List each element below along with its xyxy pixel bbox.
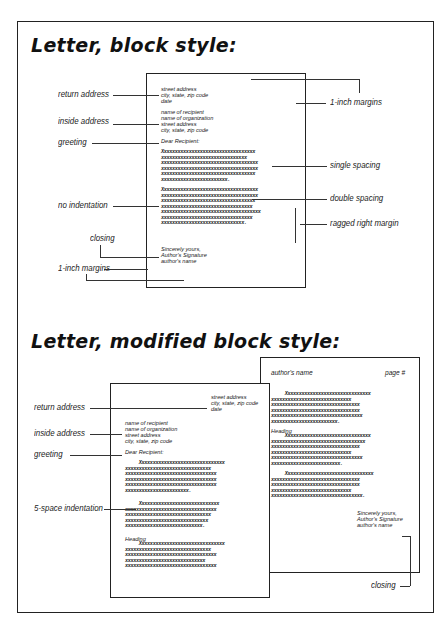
leader-line	[402, 536, 410, 537]
modified-letter-page-1: street address city, state, zip code dat…	[110, 383, 270, 598]
leader-line	[400, 586, 410, 587]
ragged-margin-marker	[295, 208, 296, 243]
label-ragged-right: ragged right margin	[330, 218, 399, 228]
author-name-line: author's name	[357, 522, 392, 528]
return-address-line: date	[161, 98, 172, 104]
label-margins-left: 1-inch margins	[58, 263, 110, 273]
label-inside-address: inside address	[34, 428, 85, 438]
label-return-address: return address	[34, 402, 85, 412]
leader-line	[113, 206, 159, 207]
page-header-page-number: page #	[385, 370, 405, 376]
label-no-indentation: no indentation	[58, 200, 108, 210]
leader-line	[70, 455, 122, 456]
leader-line	[86, 280, 184, 281]
page-header-author-name: author's name	[271, 370, 313, 376]
leader-line	[251, 79, 359, 80]
modified-letter-page-2: author's name page # Xxxxxxxxxxxxxxxxxxx…	[260, 357, 420, 573]
paragraph-no-indent: Xxxxxxxxxxxxxxxxxxxxxxxxxxxxxxxxxxx xxxx…	[161, 188, 260, 227]
label-closing: closing	[371, 580, 396, 590]
paragraph-indented: Xxxxxxxxxxxxxxxxxxxxxxxxxxxxxxx xxxxxxxx…	[125, 542, 224, 570]
paragraph-indented: Xxxxxxxxxxxxxxxxxxxxxxxxxxxxxxxx xxxxxxx…	[271, 472, 373, 500]
label-closing: closing	[90, 233, 115, 243]
leader-line	[100, 257, 159, 258]
label-greeting: greeting	[58, 137, 87, 147]
label-margins-right: 1-inch margins	[330, 97, 382, 107]
leader-line	[100, 245, 101, 257]
paragraph-indented: Xxxxxxxxxxxxxxxxxxxxxxxxxxxxx xxxxxxxxxx…	[125, 502, 219, 530]
leader-line	[359, 79, 360, 93]
leader-line	[90, 434, 122, 435]
leader-line	[113, 95, 159, 96]
leader-line	[252, 199, 327, 200]
leader-line	[272, 166, 327, 167]
leader-line	[296, 103, 326, 104]
paragraph-single-spaced: Xxxxxxxxxxxxxxxxxxxxxxxxxxxxxxxxxx xxxxx…	[161, 150, 258, 183]
inside-address-line: city, state, zip code	[125, 438, 172, 444]
leader-line	[90, 408, 207, 409]
inside-address-line: city, state, zip code	[161, 127, 208, 133]
greeting-text: Dear Recipient:	[161, 138, 200, 144]
block-letter-page: street address city, state, zip code dat…	[146, 73, 306, 288]
paragraph-indented: Xxxxxxxxxxxxxxxxxxxxxxxxxxxxxxx xxxxxxxx…	[271, 434, 370, 467]
leader-line	[104, 509, 136, 510]
leader-line	[92, 143, 159, 144]
leader-line	[113, 124, 159, 125]
author-name-line: author's name	[161, 258, 196, 264]
leader-line	[300, 224, 327, 225]
label-5-space-indentation: 5-space indentation	[34, 503, 103, 513]
paragraph-indented: Xxxxxxxxxxxxxxxxxxxxxxxxxxxxxxx xxxxxxxx…	[271, 392, 370, 425]
leader-line	[410, 536, 411, 586]
label-return-address: return address	[58, 89, 109, 99]
label-greeting: greeting	[34, 449, 63, 459]
block-style-title: Letter, block style:	[31, 34, 237, 56]
label-inside-address: inside address	[58, 116, 109, 126]
paragraph-indented: Xxxxxxxxxxxxxxxxxxxxxxxxxxxxxxx xxxxxxxx…	[125, 461, 224, 494]
return-address-line: date	[211, 406, 222, 412]
label-single-spacing: single spacing	[330, 160, 380, 170]
label-double-spacing: double spacing	[330, 193, 383, 203]
leader-line	[104, 269, 148, 270]
modified-block-style-title: Letter, modified block style:	[31, 330, 340, 352]
greeting-text: Dear Recipient:	[125, 449, 164, 455]
